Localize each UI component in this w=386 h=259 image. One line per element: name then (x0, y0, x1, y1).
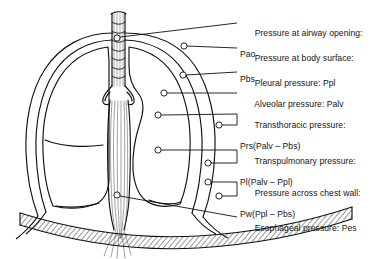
label-prs-line1: Transthoracic pressure: (254, 120, 345, 130)
label-pao-line1: Pressure at airway opening: (255, 28, 363, 38)
figure-canvas: Pressure at airway opening: Pao Pressure… (0, 0, 386, 259)
label-pes: Esophageal pressure: Pes (240, 212, 357, 244)
label-palv-line1: Alveolar pressure: Palv (254, 99, 344, 109)
label-pw-line1: Pressure across chest wall: (255, 188, 361, 198)
label-list: Pressure at airway opening: Pao Pressure… (0, 0, 386, 259)
label-pl-line1: Transpulmonary pressure: (254, 156, 355, 166)
label-pes-line1: Esophageal pressure: Pes (255, 223, 357, 233)
label-ppl-line1: Pleural pressure: Ppl (255, 78, 336, 88)
label-pbs-line1: Pressure at body surface: (255, 53, 354, 63)
